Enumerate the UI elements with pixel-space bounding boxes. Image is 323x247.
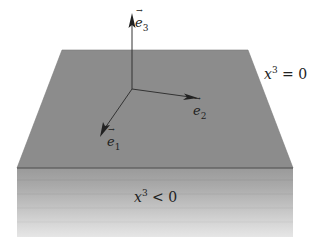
surface-plane [17,50,293,168]
e1-label: e1 [107,135,120,152]
subsurface-inequality-label: x3 < 0 [134,189,177,204]
plane-diagram [0,0,323,247]
plane-equation-label: x3 = 0 [264,66,307,81]
e3-label: e3 [135,16,148,33]
e2-label: e2 [193,104,206,121]
